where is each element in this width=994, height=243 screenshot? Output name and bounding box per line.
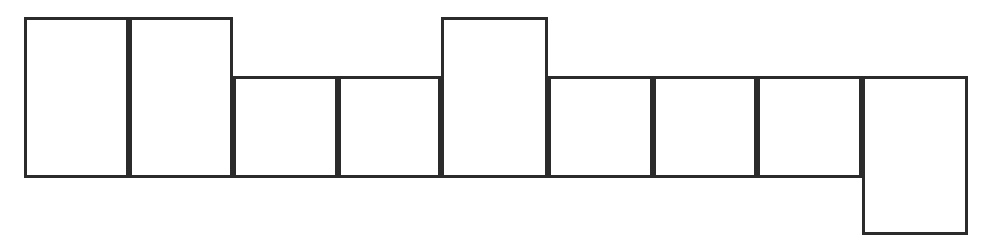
diagram-block-2 bbox=[131, 19, 232, 177]
diagram-block-4 bbox=[340, 78, 440, 177]
diagram-block-1 bbox=[26, 19, 128, 177]
diagram-block-6 bbox=[550, 78, 652, 177]
diagram-block-5 bbox=[443, 19, 547, 177]
diagram-block-3 bbox=[235, 78, 337, 177]
diagram-block-7 bbox=[655, 78, 756, 177]
diagram-canvas bbox=[0, 0, 994, 243]
diagram-block-8 bbox=[759, 78, 861, 177]
block-diagram-figure bbox=[0, 0, 994, 243]
diagram-block-9 bbox=[864, 78, 967, 234]
